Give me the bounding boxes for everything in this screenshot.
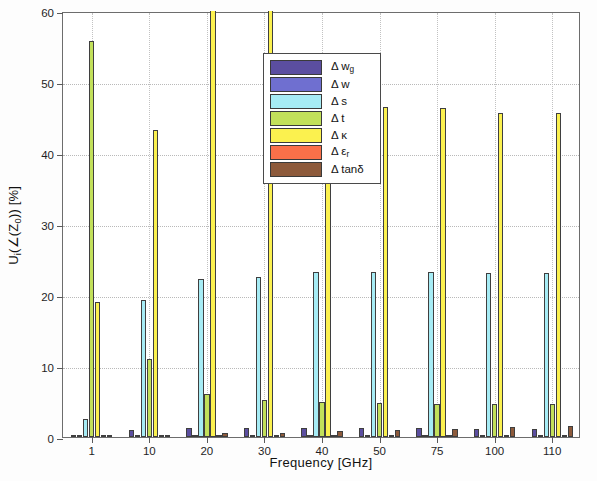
legend-label: Δ κ (331, 130, 347, 142)
y-axis-title-text: Ui(∠(Z0)) [%] (6, 186, 23, 265)
x-axis-tick (207, 437, 208, 443)
bar (422, 435, 427, 437)
legend-label-main: Δ ε (331, 145, 346, 157)
legend-item: Δ tanδ (270, 161, 374, 178)
bar (504, 435, 509, 437)
legend-label-subscript: r (346, 150, 349, 159)
bar (365, 435, 370, 437)
bar (141, 300, 146, 437)
bar (389, 435, 394, 437)
legend-label: Δ t (331, 113, 344, 125)
y-axis-title-sub-0: 0 (12, 218, 22, 223)
bar (262, 400, 267, 437)
legend-item: Δ εr (270, 144, 374, 161)
y-axis-tick-label: 0 (48, 433, 54, 445)
y-axis-title-mid: (∠(Z (6, 223, 21, 252)
bar (250, 435, 255, 437)
legend-label-main: Δ w (331, 60, 350, 72)
bar (337, 431, 342, 437)
bar (313, 272, 318, 437)
bar (210, 11, 215, 437)
bar (383, 107, 388, 437)
y-axis-title: Ui(∠(Z0)) [%] (4, 12, 24, 438)
gridline-vertical (495, 13, 496, 437)
x-axis-tick (552, 437, 553, 443)
bar (89, 41, 94, 437)
y-axis-tick (57, 84, 63, 85)
figure-canvas: Ui(∠(Z0)) [%] 0102030405060 110203040507… (0, 0, 597, 481)
bar (568, 426, 573, 437)
bar (71, 435, 76, 437)
bar (434, 404, 439, 437)
legend-swatch (270, 145, 322, 160)
legend-label-main: Δ tanδ (331, 163, 364, 175)
legend-swatch (270, 60, 322, 75)
legend-swatch (270, 77, 322, 92)
bar (416, 428, 421, 437)
y-axis-tick (57, 439, 63, 440)
bar (395, 430, 400, 437)
bar (165, 435, 170, 437)
bar (198, 279, 203, 437)
bar (204, 394, 209, 437)
x-axis-tick (322, 437, 323, 443)
bar (95, 302, 100, 437)
bar (159, 435, 164, 437)
x-axis-tick (92, 437, 93, 443)
legend-label-main: Δ t (331, 112, 344, 124)
bar (359, 428, 364, 437)
chart-legend: Δ wgΔ wΔ sΔ tΔ κΔ εrΔ tanδ (263, 53, 381, 184)
bar (440, 108, 445, 437)
legend-item: Δ wg (270, 59, 374, 76)
bar (135, 435, 140, 437)
bar (101, 435, 106, 437)
legend-swatch (270, 111, 322, 126)
y-axis-tick-label: 50 (41, 78, 54, 90)
y-axis-title-sub-i: i (12, 253, 22, 255)
x-axis-tick (264, 437, 265, 443)
y-axis-tick-label: 40 (41, 149, 54, 161)
y-axis-tick-label: 60 (41, 7, 54, 19)
legend-label-main: Δ w (331, 78, 350, 90)
legend-item: Δ w (270, 76, 374, 93)
bar (129, 430, 134, 437)
y-axis-title-suffix: )) [%] (6, 186, 21, 218)
legend-swatch (270, 94, 322, 109)
bar (452, 429, 457, 437)
bar (77, 435, 82, 437)
bar (556, 113, 561, 437)
bar (486, 273, 491, 437)
y-axis-tick (57, 368, 63, 369)
y-axis-tick (57, 155, 63, 156)
bar (377, 403, 382, 437)
gridline-vertical (552, 13, 553, 437)
y-axis-tick-label: 10 (41, 362, 54, 374)
bar (256, 277, 261, 437)
legend-item: Δ κ (270, 127, 374, 144)
x-axis-tick (380, 437, 381, 443)
bar (83, 419, 88, 437)
bar (107, 435, 112, 437)
bar (274, 435, 279, 437)
bar (216, 435, 221, 437)
bar (498, 113, 503, 437)
legend-label-subscript: g (350, 65, 355, 74)
legend-swatch (270, 162, 322, 177)
bar (480, 435, 485, 437)
gridline-vertical (207, 13, 208, 437)
bar (538, 435, 543, 437)
legend-label-main: Δ s (331, 95, 347, 107)
x-axis-tick (437, 437, 438, 443)
legend-item: Δ t (270, 110, 374, 127)
bar (562, 435, 567, 437)
bar (319, 402, 324, 438)
y-axis-tick (57, 226, 63, 227)
bar (192, 435, 197, 437)
bar (510, 427, 515, 437)
bar (331, 435, 336, 437)
legend-label: Δ s (331, 96, 347, 108)
bar (186, 428, 191, 437)
plot-area: 0102030405060 1102030405075100110 Δ wgΔ … (62, 12, 580, 438)
bar (544, 273, 549, 437)
y-axis-title-prefix: U (6, 255, 21, 265)
